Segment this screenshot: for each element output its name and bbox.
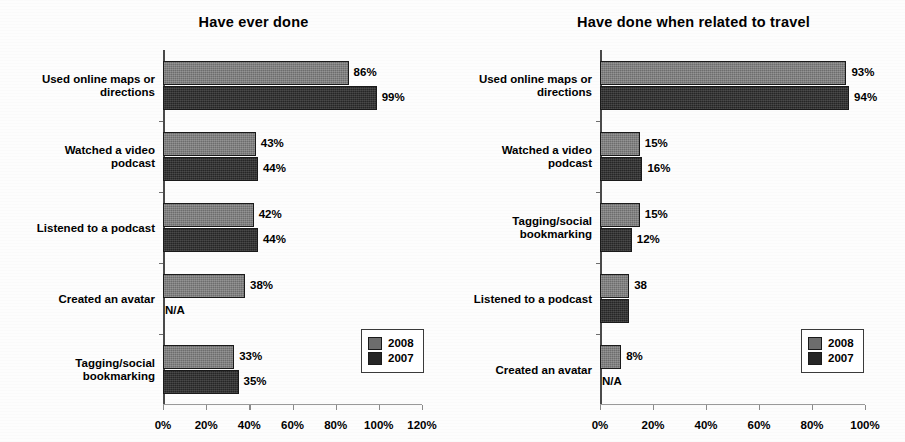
x-axis-tick [379, 405, 380, 410]
x-axis-tick-label: 40% [694, 419, 717, 431]
x-axis-tick-label: 0% [592, 419, 609, 431]
bar-2007 [600, 86, 849, 110]
chart-panel-have-ever-done: Have ever done Used online maps or direc… [0, 0, 452, 442]
x-axis-tick-label: 100% [364, 419, 393, 431]
legend-item-2008: 2008 [368, 337, 414, 350]
bar-value-label: 8% [626, 351, 643, 363]
category-tick [596, 334, 600, 335]
category-tick [596, 121, 600, 122]
x-axis-tick-label: 0% [155, 419, 172, 431]
bar-2007 [600, 228, 632, 252]
category-label: Tagging/social bookmarking [512, 215, 592, 241]
category-label: Listened to a podcast [474, 292, 592, 305]
bar-value-label: 44% [263, 163, 286, 175]
legend-label-2007: 2007 [388, 353, 414, 365]
charts-container: Have ever done Used online maps or direc… [0, 0, 905, 442]
bar-2007 [163, 86, 377, 110]
x-axis-tick [163, 405, 164, 410]
category-tick [596, 192, 600, 193]
x-axis-tick [759, 405, 760, 410]
x-axis-tick-label: 60% [747, 419, 770, 431]
x-axis-tick-label: 60% [281, 419, 304, 431]
category-label: Tagging/social bookmarking [75, 357, 155, 383]
category-label: Listened to a podcast [37, 221, 155, 234]
bar-2007 [163, 228, 258, 252]
legend-swatch-2008 [368, 337, 382, 350]
category-label: Used online maps or directions [479, 73, 592, 99]
category-label: Created an avatar [58, 292, 155, 305]
category-label: Used online maps or directions [42, 73, 155, 99]
bar-value-label: 15% [645, 138, 668, 150]
bar-value-label: 86% [354, 67, 377, 79]
chart-panel-have-done-travel: Have done when related to travel Used on… [452, 0, 905, 442]
x-axis-tick-label: 80% [800, 419, 823, 431]
x-axis-tick [206, 405, 207, 410]
bar-2008 [600, 132, 640, 156]
bar-2007 [163, 370, 239, 394]
bar-value-na: N/A [165, 305, 185, 317]
bar-value-label: 35% [244, 376, 267, 388]
category-label: Created an avatar [495, 363, 592, 376]
bar-2008 [163, 345, 234, 369]
bar-value-label: 99% [382, 92, 405, 104]
x-axis-tick [293, 405, 294, 410]
legend-label-2008: 2008 [828, 338, 854, 350]
x-axis-tick-label: 20% [641, 419, 664, 431]
bar-value-label: 94% [854, 92, 877, 104]
bar-value-label: 43% [261, 138, 284, 150]
bar-2007 [600, 157, 642, 181]
chart-title-left: Have ever done [0, 14, 452, 30]
x-axis-tick-label: 100% [850, 419, 879, 431]
category-labels-right: Used online maps or directionsWatched a … [437, 50, 592, 405]
x-axis-tick-label: 40% [238, 419, 261, 431]
legend-swatch-2008 [808, 337, 822, 350]
bar-2008 [600, 274, 629, 298]
bar-2008 [163, 132, 256, 156]
x-axis-tick [422, 405, 423, 410]
legend-swatch-2007 [368, 352, 382, 365]
category-label: Watched a video podcast [502, 144, 592, 170]
category-tick [159, 334, 163, 335]
bar-2007 [163, 157, 258, 181]
bar-2007 [600, 299, 629, 323]
bar-2008 [163, 61, 349, 85]
legend-label-2007: 2007 [828, 353, 854, 365]
bar-value-label: 42% [259, 209, 282, 221]
category-labels-left: Used online maps or directionsWatched a … [0, 50, 155, 405]
bar-value-label: 12% [637, 234, 660, 246]
x-axis-tick-label: 120% [407, 419, 436, 431]
category-label: Watched a video podcast [65, 144, 155, 170]
x-axis-tick-label: 80% [324, 419, 347, 431]
bar-2008 [163, 203, 254, 227]
x-axis-tick [336, 405, 337, 410]
legend-label-2008: 2008 [388, 338, 414, 350]
x-axis-tick [249, 405, 250, 410]
x-axis-tick-label: 20% [195, 419, 218, 431]
bar-value-label: 33% [239, 351, 262, 363]
x-axis-tick [600, 405, 601, 410]
bar-value-label: 15% [645, 209, 668, 221]
bar-2008 [600, 61, 846, 85]
bar-value-label: 16% [647, 163, 670, 175]
x-axis-tick [812, 405, 813, 410]
bar-value-label: 38 [634, 280, 647, 292]
x-axis-line-right [600, 404, 865, 405]
category-tick [159, 192, 163, 193]
bar-value-label: 93% [851, 67, 874, 79]
x-axis-tick [706, 405, 707, 410]
category-tick [159, 121, 163, 122]
legend-item-2007: 2007 [808, 352, 854, 365]
bar-2008 [600, 203, 640, 227]
bar-2008 [163, 274, 245, 298]
legend-left: 2008 2007 [361, 329, 424, 373]
legend-item-2008: 2008 [808, 337, 854, 350]
bar-value-label: 38% [250, 280, 273, 292]
bar-value-na: N/A [602, 376, 622, 388]
bar-value-label: 44% [263, 234, 286, 246]
chart-title-right: Have done when related to travel [452, 14, 905, 30]
legend-item-2007: 2007 [368, 352, 414, 365]
legend-swatch-2007 [808, 352, 822, 365]
x-axis-tick [865, 405, 866, 410]
legend-right: 2008 2007 [801, 329, 864, 373]
x-axis-tick [653, 405, 654, 410]
